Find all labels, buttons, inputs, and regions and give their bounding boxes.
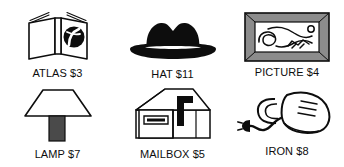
item-grid: ATLAS $3 HAT $11 bbox=[0, 0, 344, 167]
item-card-hat[interactable]: HAT $11 bbox=[115, 0, 230, 84]
item-card-lamp[interactable]: LAMP $7 bbox=[0, 84, 115, 167]
lamp-artwork bbox=[0, 84, 115, 142]
open-book-globe-icon bbox=[21, 10, 95, 62]
mailbox-artwork bbox=[115, 84, 230, 142]
atlas-artwork bbox=[0, 0, 115, 62]
fedora-hat-icon bbox=[125, 16, 221, 62]
price-card-sheet: ATLAS $3 HAT $11 bbox=[0, 0, 344, 167]
picture-artwork bbox=[230, 0, 344, 62]
item-caption-iron: IRON $8 bbox=[265, 145, 309, 157]
table-lamp-icon bbox=[18, 86, 98, 142]
clothes-iron-cord-icon bbox=[237, 85, 337, 143]
item-card-iron[interactable]: IRON $8 bbox=[230, 84, 344, 167]
hat-artwork bbox=[115, 0, 230, 62]
item-caption-picture: PICTURE $4 bbox=[255, 66, 320, 78]
item-caption-mailbox: MAILBOX $5 bbox=[140, 148, 205, 160]
iron-artwork bbox=[230, 84, 344, 143]
item-card-mailbox[interactable]: MAILBOX $5 bbox=[115, 84, 230, 167]
item-caption-hat: HAT $11 bbox=[151, 68, 193, 80]
mailbox-flag-icon bbox=[129, 86, 217, 142]
item-caption-atlas: ATLAS $3 bbox=[32, 67, 82, 79]
item-card-atlas[interactable]: ATLAS $3 bbox=[0, 0, 115, 84]
item-caption-lamp: LAMP $7 bbox=[35, 148, 81, 160]
item-card-picture[interactable]: PICTURE $4 bbox=[230, 0, 344, 84]
framed-picture-icon bbox=[244, 12, 330, 62]
